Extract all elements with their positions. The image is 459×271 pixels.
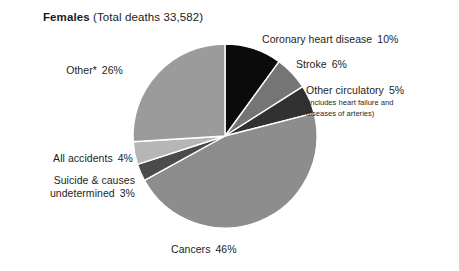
- slice-label-all-accidents: All accidents4%: [53, 152, 133, 165]
- slice-sublabel-line2: diseases of arteries): [306, 109, 404, 119]
- slice-sublabel-line1: (includes heart failure and: [306, 98, 404, 108]
- slice-label-text: All accidents: [53, 152, 113, 164]
- slice-label-coronary-heart-disease: Coronary heart disease10%: [262, 33, 398, 46]
- slice-label-text: Cancers: [171, 243, 210, 255]
- slice-label-stroke: Stroke6%: [296, 58, 347, 71]
- slice-label-percent: 6%: [332, 58, 347, 70]
- slice-label-line1: Suicide & causes: [54, 174, 135, 186]
- slice-label-percent: 46%: [215, 243, 236, 255]
- slice-label-other: Other*26%: [66, 64, 123, 77]
- slice-label-percent: 5%: [389, 84, 404, 96]
- pie-slice-other: [133, 44, 225, 142]
- slice-label-text: Other*: [66, 64, 97, 76]
- slice-label-text: Stroke: [296, 58, 327, 70]
- slice-label-suicide: Suicide & causes undetermined3%: [50, 174, 135, 200]
- slice-label-other-circulatory: Other circulatory5% (includes heart fail…: [306, 84, 404, 118]
- slice-label-percent: 26%: [102, 64, 123, 76]
- slice-label-percent: 10%: [377, 33, 398, 45]
- slice-label-text: Other circulatory: [306, 84, 384, 96]
- slice-label-percent: 3%: [120, 187, 135, 199]
- slice-label-cancers: Cancers46%: [171, 243, 237, 256]
- pie-chart-figure: Females (Total deaths 33,582) Coronary h…: [0, 0, 459, 271]
- slice-label-line2: undetermined: [50, 187, 115, 199]
- pie-slice-group: [133, 44, 317, 228]
- slice-label-percent: 4%: [118, 152, 133, 164]
- slice-label-text: Coronary heart disease: [262, 33, 372, 45]
